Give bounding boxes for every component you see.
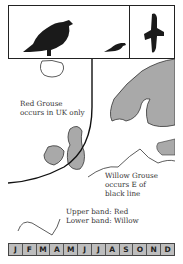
flying-bird-panel bbox=[129, 5, 175, 59]
distribution-map: Red Grouse occurs in UK only Willow Grou… bbox=[8, 59, 175, 241]
month-sep: S bbox=[120, 244, 134, 255]
month-apr: A bbox=[50, 244, 64, 255]
legend-lower-band: Lower band: Willow bbox=[66, 216, 139, 225]
willow-grouse-note-line1: Willow Grouse bbox=[105, 171, 158, 180]
willow-grouse-note-line3: black line bbox=[105, 189, 158, 198]
month-mar: M bbox=[37, 244, 51, 255]
month-dec: D bbox=[161, 244, 174, 255]
bird-silhouettes-panel bbox=[8, 5, 130, 59]
grouse-small-icon bbox=[103, 40, 127, 54]
month-may: M bbox=[64, 244, 78, 255]
red-grouse-note-line1: Red Grouse bbox=[20, 99, 85, 108]
red-grouse-note-line2: occurs in UK only bbox=[20, 108, 85, 117]
month-feb: F bbox=[23, 244, 37, 255]
month-nov: N bbox=[147, 244, 161, 255]
month-bar: J F M A M J J A S O N D bbox=[8, 243, 175, 256]
grouse-flying-icon bbox=[142, 12, 166, 56]
month-jul: J bbox=[92, 244, 106, 255]
month-aug: A bbox=[106, 244, 120, 255]
month-jun: J bbox=[78, 244, 92, 255]
willow-grouse-note-line2: occurs E of bbox=[105, 180, 158, 189]
month-oct: O bbox=[133, 244, 147, 255]
grouse-standing-icon bbox=[17, 14, 77, 58]
month-jan: J bbox=[9, 244, 23, 255]
legend-upper-band: Upper band: Red bbox=[66, 207, 139, 216]
